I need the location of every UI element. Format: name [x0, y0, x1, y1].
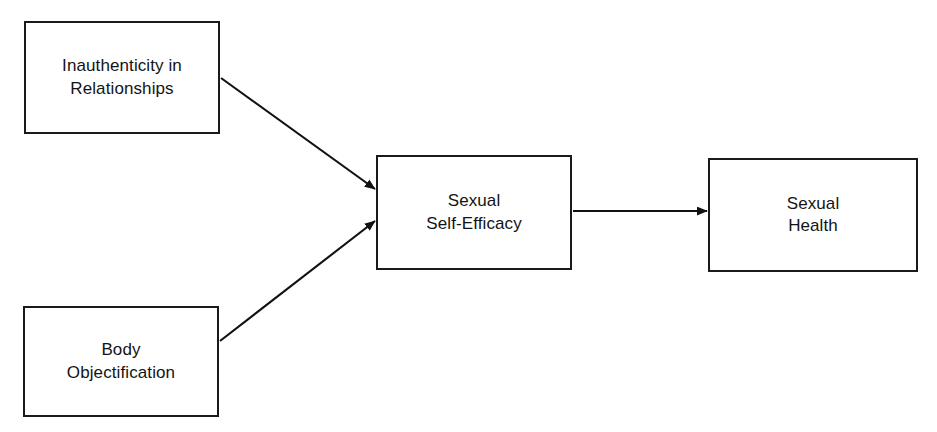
edge-body-to-efficacy: [220, 221, 375, 341]
node-body-objectification: Body Objectification: [23, 306, 219, 417]
node-label: Sexual Self-Efficacy: [420, 190, 527, 235]
edge-inauthenticity-to-efficacy: [221, 78, 375, 189]
node-label: Body Objectification: [61, 339, 181, 384]
node-sexual-self-efficacy: Sexual Self-Efficacy: [376, 155, 572, 270]
node-label: Sexual Health: [781, 193, 846, 238]
node-inauthenticity-in-relationships: Inauthenticity in Relationships: [24, 21, 220, 134]
node-sexual-health: Sexual Health: [708, 158, 918, 272]
diagram-canvas: Inauthenticity in Relationships Body Obj…: [0, 0, 937, 432]
node-label: Inauthenticity in Relationships: [56, 55, 188, 100]
